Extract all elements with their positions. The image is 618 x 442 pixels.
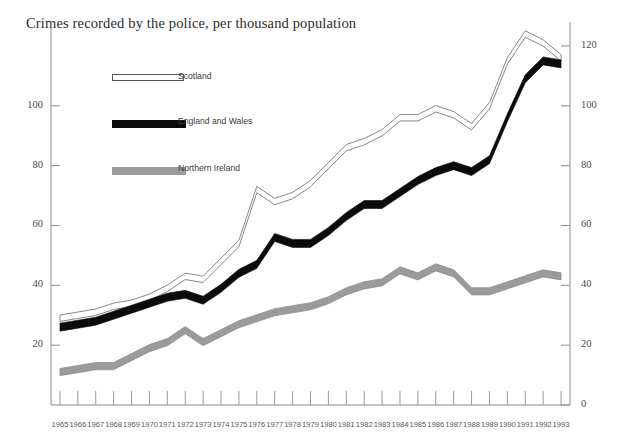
legend-swatch-scotland xyxy=(112,74,184,81)
y-axis-left-tick-label: 80 xyxy=(17,159,43,170)
y-axis-right-tick-label: 60 xyxy=(581,218,611,229)
crime-rate-line-chart: Crimes recorded by the police, per thous… xyxy=(0,0,618,442)
y-axis-right-tick-label: 80 xyxy=(581,159,611,170)
legend-swatch-northern-ireland xyxy=(112,167,186,175)
y-axis-right-tick-label: 100 xyxy=(581,99,611,110)
plot-area xyxy=(0,0,618,442)
legend-label-england-and-wales: England and Wales xyxy=(178,116,252,126)
legend-label-northern-ireland: Northern Ireland xyxy=(178,163,240,173)
y-axis-right-tick-label: 120 xyxy=(581,39,611,50)
series-northern-ireland xyxy=(60,264,561,376)
x-axis-tick-label: 1993 xyxy=(549,420,573,429)
y-axis-left-tick-label: 60 xyxy=(17,218,43,229)
legend-swatch-england-and-wales xyxy=(112,120,186,128)
y-axis-right-tick-label: 40 xyxy=(581,278,611,289)
y-axis-left-tick-label: 20 xyxy=(17,338,43,349)
legend-label-scotland: Scotland xyxy=(178,71,211,81)
y-axis-left-tick-label: 100 xyxy=(17,99,43,110)
y-axis-left-tick-label: 40 xyxy=(17,278,43,289)
y-axis-right-tick-label: 20 xyxy=(581,338,611,349)
y-axis-right-tick-label: 0 xyxy=(581,398,611,409)
